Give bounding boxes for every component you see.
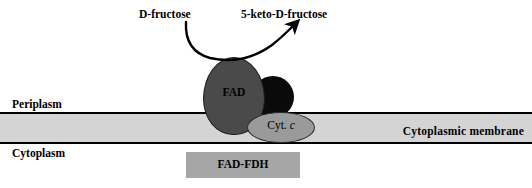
substrate-label-d-fructose: D-fructose bbox=[139, 8, 191, 20]
membrane-enzyme-diagram: Cytoplasmic membrane Periplasm Cytoplasm… bbox=[0, 0, 532, 188]
fad-fdh-label: FAD-FDH bbox=[186, 158, 300, 170]
fad-subunit-label: FAD bbox=[203, 86, 265, 98]
product-label-5-keto-d-fructose: 5-keto-D-fructose bbox=[241, 8, 327, 20]
cytoplasm-label: Cytoplasm bbox=[12, 147, 65, 159]
cytochrome-c-subunit-label: Cyt. c bbox=[247, 119, 315, 131]
cytc-prefix: Cyt. bbox=[267, 119, 289, 131]
cytc-italic-c: c bbox=[290, 119, 295, 131]
cytoplasmic-membrane-label: Cytoplasmic membrane bbox=[403, 125, 524, 137]
periplasm-label: Periplasm bbox=[12, 98, 62, 110]
